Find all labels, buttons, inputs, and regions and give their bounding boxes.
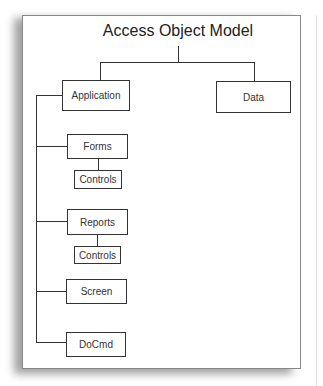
connector-to-forms xyxy=(36,146,67,147)
node-data: Data xyxy=(216,81,291,113)
connector-application-stub xyxy=(36,95,62,96)
node-reports: Reports xyxy=(67,209,128,235)
connector-root-vertical xyxy=(178,46,179,62)
node-application: Application xyxy=(62,80,130,111)
connector-to-reports xyxy=(36,221,67,222)
connector-to-application xyxy=(100,62,101,80)
connector-to-data xyxy=(254,62,255,81)
connector-reports-controls xyxy=(97,234,98,246)
node-reports-controls: Controls xyxy=(74,246,121,264)
connector-to-screen xyxy=(36,291,66,292)
node-forms: Forms xyxy=(67,134,128,159)
connector-root-horizontal xyxy=(100,62,255,63)
node-screen: Screen xyxy=(66,279,127,304)
node-forms-controls: Controls xyxy=(74,170,122,189)
node-docmd: DoCmd xyxy=(66,332,126,357)
diagram-frame xyxy=(22,15,301,369)
connector-trunk xyxy=(36,95,37,343)
connector-to-docmd xyxy=(36,342,66,343)
page-edge xyxy=(316,15,317,386)
connector-forms-controls xyxy=(98,158,99,170)
diagram-title: Access Object Model xyxy=(22,22,323,40)
